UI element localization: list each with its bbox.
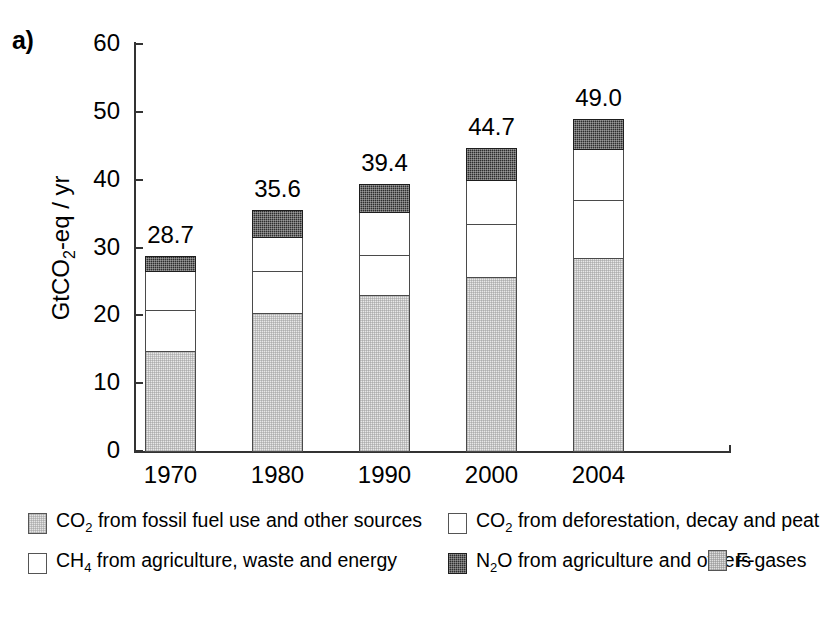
- y-axis-tick-label: 10: [72, 370, 120, 394]
- x-axis-line: [134, 451, 731, 453]
- bar-segment-n2o-1990: [359, 184, 410, 213]
- x-axis-end-cap: [729, 445, 731, 453]
- bar-segment-ch4-2004: [573, 149, 624, 201]
- x-axis-tick-label-1970: 1970: [116, 462, 226, 488]
- bar-segment-ch4-2000: [466, 180, 517, 225]
- bar-segment-deforestation-1990: [359, 255, 410, 296]
- chart-legend: CO2 from fossil fuel use and other sourc…: [28, 505, 808, 591]
- bar-segment-n2o-2004: [573, 119, 624, 151]
- legend-swatch-icon: [448, 513, 467, 534]
- y-axis-tick-label: 0: [72, 438, 120, 462]
- y-axis-tick: [134, 111, 143, 113]
- bar-segment-ch4-1990: [359, 212, 410, 256]
- bar-segment-deforestation-2000: [466, 224, 517, 278]
- legend-label: F-gases: [736, 549, 806, 571]
- x-axis-tick-label-2004: 2004: [544, 462, 654, 488]
- bar-segment-fossil-2004: [573, 258, 624, 452]
- chart-plot-area: 0102030405060 GtCO2-eq / yr 28.735.639.4…: [0, 0, 826, 500]
- legend-row: CH4 from agriculture, waste and energyN2…: [28, 545, 808, 581]
- bar-segment-deforestation-2004: [573, 200, 624, 259]
- bar-total-label-1990: 39.4: [330, 151, 440, 175]
- legend-row: CO2 from fossil fuel use and other sourc…: [28, 505, 808, 541]
- bar-segment-n2o-1980: [252, 210, 303, 238]
- bar-total-label-2000: 44.7: [437, 115, 547, 139]
- legend-label: CO2 from fossil fuel use and other sourc…: [56, 509, 422, 539]
- bar-segment-fossil-1970: [145, 351, 196, 452]
- y-axis-title: GtCO2-eq / yr: [47, 123, 79, 373]
- legend-swatch-icon: [448, 553, 467, 574]
- bar-segment-deforestation-1980: [252, 271, 303, 314]
- bar-segment-n2o-2000: [466, 148, 517, 181]
- bar-segment-fossil-1980: [252, 313, 303, 452]
- legend-item-fgas-4[interactable]: F-gases: [708, 549, 806, 571]
- legend-label: CH4 from agriculture, waste and energy: [56, 549, 397, 579]
- legend-swatch-icon: [28, 513, 47, 534]
- bar-segment-ch4-1970: [145, 271, 196, 311]
- legend-swatch-icon: [28, 553, 47, 574]
- bar-segment-fossil-2000: [466, 277, 517, 452]
- y-axis-tick-label: 30: [72, 235, 120, 259]
- bar-segment-ch4-1980: [252, 237, 303, 273]
- x-axis-tick-label-1990: 1990: [330, 462, 440, 488]
- y-axis-tick: [134, 382, 143, 384]
- legend-label: CO2 from deforestation, decay and peat: [476, 509, 819, 539]
- y-axis-tick-label: 60: [72, 31, 120, 55]
- y-axis-tick-label: 40: [72, 167, 120, 191]
- bar-segment-fossil-1990: [359, 295, 410, 452]
- bar-total-label-2004: 49.0: [544, 86, 654, 110]
- legend-item-dark-3[interactable]: N2O from agriculture and others: [448, 549, 751, 579]
- y-axis-tick-label: 50: [72, 99, 120, 123]
- x-axis-tick-label-1980: 1980: [223, 462, 333, 488]
- bar-total-label-1970: 28.7: [116, 223, 226, 247]
- y-axis-tick: [134, 450, 143, 452]
- bar-total-label-1980: 35.6: [223, 177, 333, 201]
- legend-item-fossil-0[interactable]: CO2 from fossil fuel use and other sourc…: [28, 509, 422, 539]
- y-axis-tick-label: 20: [72, 302, 120, 326]
- bar-segment-n2o-1970: [145, 256, 196, 271]
- x-axis-tick-label-2000: 2000: [437, 462, 547, 488]
- y-axis-tick: [134, 179, 143, 181]
- figure-panel-a: a) 0102030405060 GtCO2-eq / yr 28.735.63…: [0, 0, 826, 621]
- legend-swatch-icon: [708, 550, 727, 571]
- bar-segment-deforestation-1970: [145, 310, 196, 352]
- y-axis-tick: [134, 314, 143, 316]
- y-axis-tick: [134, 43, 143, 45]
- legend-item-white-2[interactable]: CH4 from agriculture, waste and energy: [28, 549, 397, 579]
- legend-item-white-1[interactable]: CO2 from deforestation, decay and peat: [448, 509, 819, 539]
